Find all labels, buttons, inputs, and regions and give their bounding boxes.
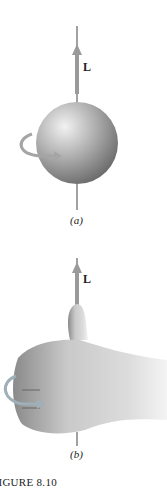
sublabel-a: (a) [70,214,83,226]
sphere-diagram [0,0,167,240]
panel-b: L (b) [0,240,167,470]
figure-caption: FIGURE 8.10 [0,476,57,488]
vector-label-L-a: L [83,60,91,75]
sublabel-b: (b) [70,448,83,460]
vector-label-L-b: L [83,272,91,287]
panel-a: L (a) [0,0,167,240]
